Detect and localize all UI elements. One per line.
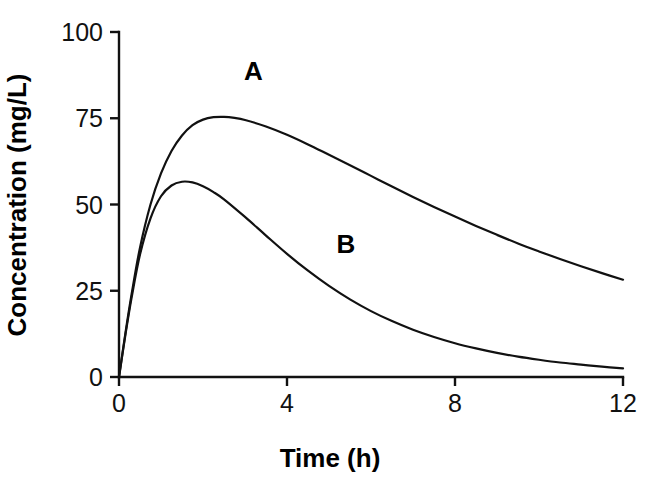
y-axis-title: Concentration (mg/L) [2, 74, 32, 337]
x-tick-label-8: 8 [448, 389, 462, 417]
x-tick-label-0: 0 [112, 389, 126, 417]
y-axis-ticks [110, 32, 119, 377]
y-tick-label-75: 75 [75, 104, 103, 132]
y-axis: 0255075100 [61, 18, 119, 391]
curve-b [119, 182, 623, 377]
series-annotations: AB [244, 56, 355, 258]
curve-a [119, 117, 623, 377]
x-axis-ticks [119, 377, 623, 386]
chart-figure: 0255075100 04812 AB Time (h) Concentrati… [0, 0, 653, 484]
plot-area: 0255075100 04812 AB Time (h) Concentrati… [0, 0, 653, 484]
x-tick-label-4: 4 [280, 389, 294, 417]
series-label-b: B [336, 229, 355, 259]
y-axis-tick-labels: 0255075100 [61, 18, 103, 391]
x-tick-label-12: 12 [609, 389, 637, 417]
series-label-a: A [244, 56, 263, 86]
x-axis: 04812 [112, 377, 637, 417]
y-tick-label-50: 50 [75, 191, 103, 219]
y-tick-label-0: 0 [89, 363, 103, 391]
y-tick-label-25: 25 [75, 277, 103, 305]
data-series-group [119, 117, 623, 377]
x-axis-title: Time (h) [280, 443, 381, 473]
y-tick-label-100: 100 [61, 18, 103, 46]
x-axis-tick-labels: 04812 [112, 389, 637, 417]
